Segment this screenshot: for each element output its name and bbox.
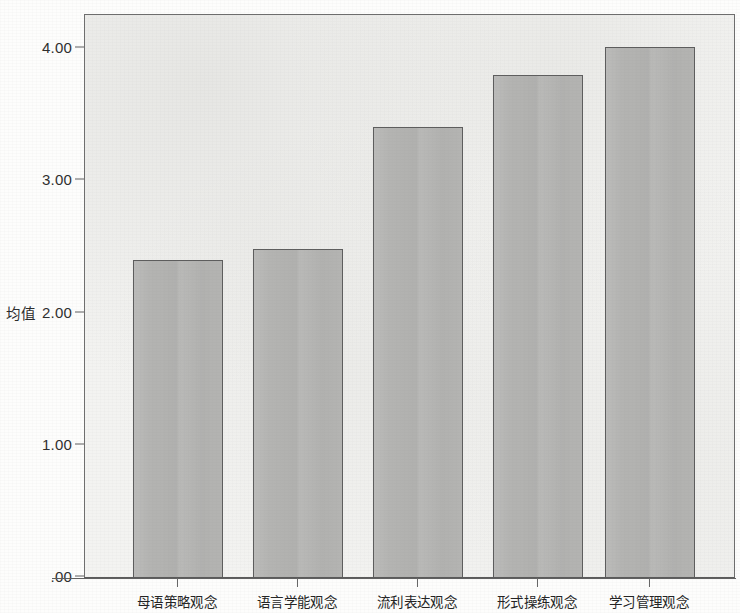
x-tick-mark-0 <box>177 578 178 587</box>
x-tick-mark-4 <box>649 578 650 587</box>
y-tick-mark-4 <box>75 47 84 48</box>
bar-chart: 4.00 3.00 2.00 1.00 .00 均值 母语策略观念 语言学能观念… <box>0 0 740 613</box>
plot-area <box>84 14 735 578</box>
y-tick-mark-3 <box>75 179 84 180</box>
y-tick-mark-0 <box>75 576 84 577</box>
y-tick-label-2: 2.00 <box>42 303 72 320</box>
x-tick-label-1: 语言学能观念 <box>257 591 337 611</box>
bar-2 <box>373 127 463 577</box>
y-tick-label-4: 4.00 <box>42 39 72 56</box>
y-tick-label-1: 1.00 <box>42 435 72 452</box>
x-tick-label-0: 母语策略观念 <box>137 591 217 611</box>
x-tick-mark-1 <box>297 578 298 587</box>
x-tick-mark-2 <box>417 578 418 587</box>
bar-1 <box>253 249 343 577</box>
bar-3 <box>493 75 583 577</box>
x-tick-label-2: 流利表达观念 <box>377 591 457 611</box>
bar-0 <box>133 260 223 577</box>
x-tick-label-3: 形式操练观念 <box>497 591 577 611</box>
y-tick-label-0: .00 <box>51 568 72 585</box>
y-tick-label-3: 3.00 <box>42 171 72 188</box>
y-axis-title: 均值 <box>6 301 35 322</box>
x-axis-line <box>52 578 736 579</box>
y-tick-mark-1 <box>75 443 84 444</box>
x-tick-mark-3 <box>537 578 538 587</box>
y-tick-mark-2 <box>75 311 84 312</box>
bar-4 <box>605 47 695 577</box>
x-tick-label-4: 学习管理观念 <box>609 591 689 611</box>
